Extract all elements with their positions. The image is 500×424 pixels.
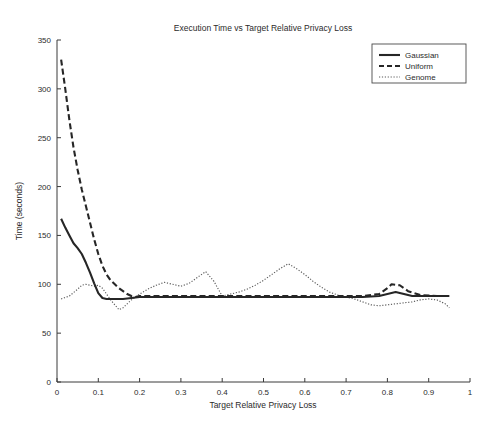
x-axis-ticks: 00.10.20.30.40.50.60.70.80.91 [55, 378, 473, 397]
chart-canvas: Execution Time vs Target Relative Privac… [0, 0, 500, 424]
chart-legend: Gaussian Uniform Genome [372, 44, 466, 83]
x-tick-label: 1 [468, 388, 473, 397]
x-axis-title: Target Relative Privacy Loss [209, 400, 316, 410]
legend-label-uniform: Uniform [405, 62, 433, 71]
chart-title: Execution Time vs Target Relative Privac… [174, 23, 352, 33]
y-tick-label: 0 [47, 378, 52, 387]
series-group [61, 60, 449, 310]
x-tick-label: 0.3 [175, 388, 187, 397]
y-tick-label: 150 [38, 231, 52, 240]
y-axis-title: Time (seconds) [14, 182, 24, 240]
x-tick-label: 0.2 [134, 388, 146, 397]
x-tick-label: 0.4 [217, 388, 229, 397]
legend-label-gaussian: Gaussian [405, 51, 439, 60]
x-tick-label: 0.6 [299, 388, 311, 397]
series-line-genome [61, 264, 449, 310]
y-tick-label: 100 [38, 280, 52, 289]
x-tick-label: 0.1 [93, 388, 105, 397]
x-tick-label: 0.5 [258, 388, 270, 397]
x-tick-label: 0 [55, 388, 60, 397]
y-tick-label: 200 [38, 183, 52, 192]
x-tick-label: 0.7 [341, 388, 353, 397]
series-line-uniform [61, 60, 449, 297]
y-tick-label: 50 [42, 329, 51, 338]
y-tick-label: 300 [38, 85, 52, 94]
y-tick-label: 250 [38, 134, 52, 143]
series-line-gaussian [61, 219, 449, 299]
x-tick-label: 0.8 [382, 388, 394, 397]
chart-figure: Execution Time vs Target Relative Privac… [0, 0, 500, 424]
y-tick-label: 350 [38, 36, 52, 45]
x-tick-label: 0.9 [423, 388, 435, 397]
legend-label-genome: Genome [405, 73, 436, 82]
